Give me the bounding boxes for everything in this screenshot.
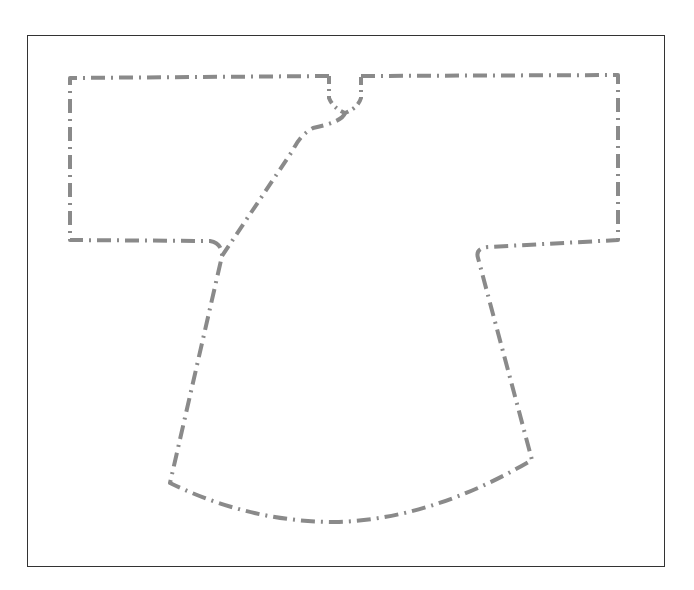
neckline — [329, 76, 361, 113]
garment-outline — [70, 75, 618, 522]
front-overlap-line — [222, 113, 345, 256]
garment-diagram — [0, 0, 694, 590]
